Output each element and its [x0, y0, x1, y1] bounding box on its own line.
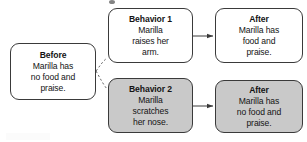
- node-after-2-body: Marilla has no food and praise.: [237, 96, 281, 129]
- diagram-canvas: Before Marilla has no food and praise. B…: [0, 0, 307, 142]
- node-behavior-1: Behavior 1 Marilla raises her arm.: [108, 8, 193, 63]
- node-after-1-body: Marilla has food and praise.: [239, 25, 279, 58]
- node-behavior-1-body: Marilla raises her arm.: [132, 25, 169, 58]
- node-behavior-2-body: Marilla scratches her nose.: [133, 95, 169, 128]
- connector-before-to-behavior2: [96, 71, 107, 89]
- node-after-2: After Marilla has no food and praise.: [215, 80, 303, 133]
- node-after-1-title: After: [249, 14, 269, 25]
- node-before-body: Marilla has no food and praise.: [31, 61, 75, 94]
- node-behavior-2-title: Behavior 2: [129, 84, 172, 95]
- node-before-title: Before: [40, 50, 67, 61]
- node-after-1: After Marilla has food and praise.: [215, 8, 303, 63]
- node-behavior-2: Behavior 2 Marilla scratches her nose.: [108, 78, 193, 133]
- node-after-2-title: After: [249, 85, 269, 96]
- top-crop-artifact: [109, 0, 115, 4]
- node-behavior-1-title: Behavior 1: [129, 14, 172, 25]
- node-before: Before Marilla has no food and praise.: [10, 43, 96, 100]
- bottom-crop-artifact: [6, 133, 50, 140]
- connector-before-to-behavior1: [96, 58, 107, 71]
